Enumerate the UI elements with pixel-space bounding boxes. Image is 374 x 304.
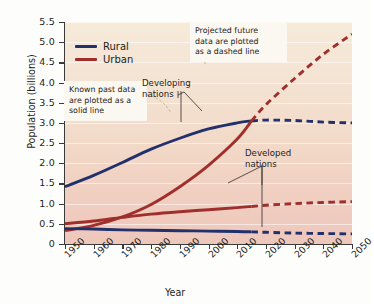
series-line-projected (252, 202, 352, 207)
legend: Rural Urban (75, 40, 133, 66)
legend-swatch-urban (75, 58, 97, 61)
y-axis-line (64, 22, 65, 245)
annotation-line: nations (142, 89, 191, 100)
y-tick (59, 22, 65, 23)
annotation-known-past-data: Known past data are plotted as a solid l… (64, 81, 147, 121)
legend-label-rural: Rural (103, 41, 129, 52)
y-tick-label: 1.0 (0, 198, 55, 209)
y-tick-label: 0.5 (0, 218, 55, 229)
series-line-historical (65, 229, 252, 232)
annotation-projected-future-data: Projected future data are plotted as a d… (190, 22, 287, 62)
annotation-line: nations (245, 159, 291, 170)
y-tick-label: 0 (0, 238, 55, 249)
legend-swatch-rural (75, 45, 97, 48)
legend-label-urban: Urban (103, 54, 133, 65)
annotation-line: as a dashed line (195, 47, 282, 58)
y-tick (59, 224, 65, 225)
x-tick-label: 2050 (349, 235, 374, 260)
annotation-line: are plotted as a (69, 96, 142, 107)
y-tick (59, 183, 65, 184)
y-tick (59, 42, 65, 43)
y-tick (59, 123, 65, 124)
y-tick (59, 143, 65, 144)
y-tick (59, 62, 65, 63)
y-tick (59, 163, 65, 164)
annotation-line: Developed (245, 148, 291, 159)
annotation-line: data are plotted (195, 37, 282, 48)
legend-item-urban: Urban (75, 53, 133, 66)
annotation-line: Developing (142, 78, 191, 89)
y-tick (59, 204, 65, 205)
series-line-projected (252, 232, 352, 234)
y-axis-label: Population (billions) (26, 17, 37, 187)
annotation-developed-nations: Developed nations (245, 148, 291, 169)
series-line-historical (65, 206, 252, 223)
legend-item-rural: Rural (75, 40, 133, 53)
annotation-line: solid line (69, 106, 142, 117)
series-line-projected (252, 120, 352, 123)
x-axis-label: Year (165, 287, 185, 298)
annotation-line: Known past data (69, 85, 142, 96)
annotation-line: Projected future (195, 26, 282, 37)
annotation-developing-nations: Developing nations (142, 78, 191, 99)
